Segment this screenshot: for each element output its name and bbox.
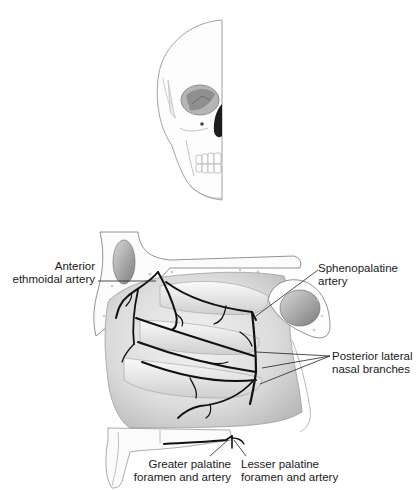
label-line: foramen and artery [134, 471, 231, 484]
anatomy-figure [0, 0, 418, 490]
label-anterior-ethmoidal-artery: Anterior ethmoidal artery [13, 260, 95, 286]
label-line: Posterior lateral [332, 350, 413, 363]
skull-illustration [157, 20, 222, 200]
label-sphenopalatine-artery: Sphenopalatine artery [318, 262, 398, 288]
label-line: Anterior [13, 260, 95, 273]
label-line: foramen and artery [241, 471, 338, 484]
label-line: ethmoidal artery [13, 273, 95, 286]
label-line: Lesser palatine [241, 458, 338, 471]
label-line: nasal branches [332, 363, 413, 376]
label-greater-palatine-foramen: Greater palatine foramen and artery [134, 458, 231, 484]
label-posterior-lateral-nasal-branches: Posterior lateral nasal branches [332, 350, 413, 376]
label-line: Greater palatine [134, 458, 231, 471]
nasal-cavity-illustration [94, 232, 330, 488]
label-line: artery [318, 275, 398, 288]
leader-lesser-palatine [234, 440, 246, 456]
label-lesser-palatine-foramen: Lesser palatine foramen and artery [241, 458, 338, 484]
label-line: Sphenopalatine [318, 262, 398, 275]
